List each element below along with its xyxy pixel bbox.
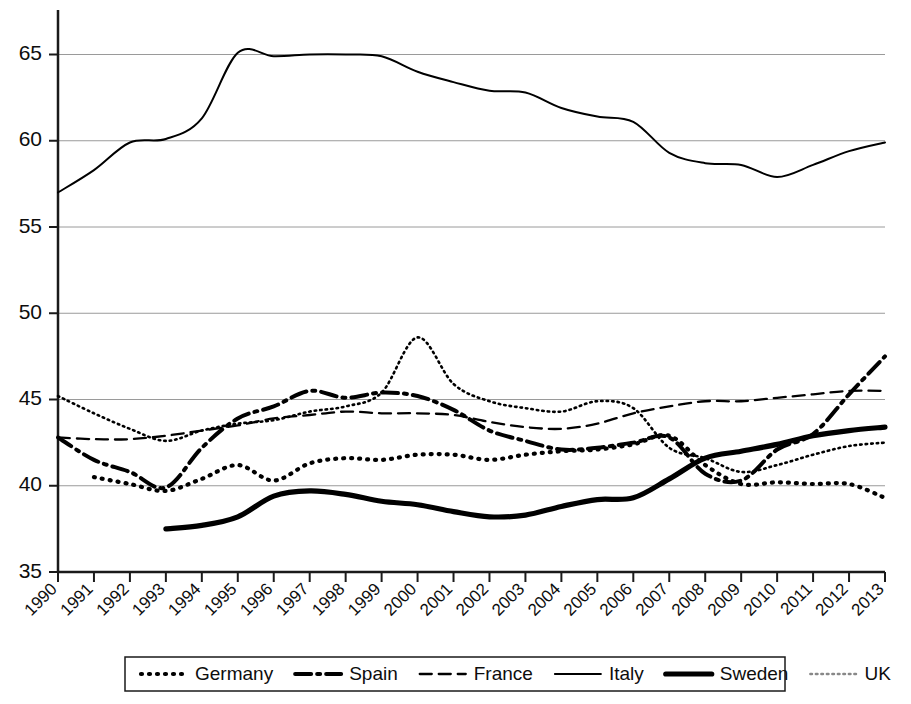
legend-label-france: France [474,663,533,684]
y-tick-label-55: 55 [19,214,42,237]
line-chart: 35404550556065 1990199119921993199419951… [0,0,911,704]
legend-label-uk: UK [864,663,891,684]
legend-label-spain: Spain [349,663,398,684]
legend-label-italy: Italy [609,663,644,684]
y-tick-label-60: 60 [19,127,42,150]
y-tick-label-40: 40 [19,472,42,495]
legend-label-germany: Germany [195,663,274,684]
y-tick-label-35: 35 [19,559,42,582]
legend-label-sweden: Sweden [720,663,789,684]
y-tick-label-45: 45 [19,386,42,409]
y-tick-label-50: 50 [19,300,42,323]
chart-container: 35404550556065 1990199119921993199419951… [0,0,911,704]
chart-legend: GermanySpainFranceItalySwedenUK [125,657,891,691]
y-tick-label-65: 65 [19,41,42,64]
